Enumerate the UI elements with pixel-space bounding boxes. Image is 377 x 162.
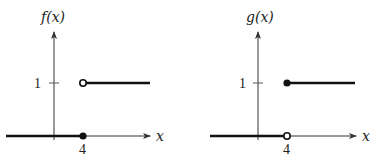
closed-point — [283, 79, 290, 86]
figure: f(x) x 1 4 g(x) x 1 4 — [0, 0, 377, 162]
plot-f: f(x) x 1 4 — [6, 9, 164, 157]
y-axis-label: g(x) — [246, 9, 274, 25]
x-axis-label: x — [362, 128, 370, 144]
x-tick-label: 4 — [79, 142, 86, 157]
x-axis-label: x — [156, 128, 164, 144]
open-point — [284, 133, 290, 139]
y-tick-label: 1 — [34, 76, 41, 91]
y-tick-label: 1 — [239, 76, 246, 91]
x-tick-label: 4 — [283, 142, 290, 157]
y-axis-label: f(x) — [40, 9, 65, 25]
closed-point — [79, 132, 86, 139]
step-function-plots: f(x) x 1 4 g(x) x 1 4 — [0, 0, 377, 162]
plot-g: g(x) x 1 4 — [210, 9, 370, 157]
open-point — [80, 80, 86, 86]
